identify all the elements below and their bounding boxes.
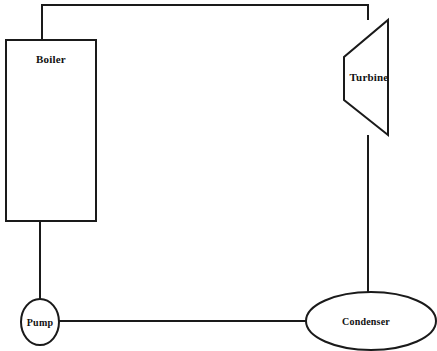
boiler-rectangle[interactable] — [6, 40, 96, 221]
pipe-boiler-to-turbine — [42, 5, 368, 40]
condenser-label: Condenser — [342, 316, 390, 327]
pump-label: Pump — [27, 317, 53, 328]
turbine-label: Turbine — [350, 71, 389, 83]
rankine-cycle-diagram: Boiler Turbine Pump Condenser — [0, 0, 437, 351]
boiler-label: Boiler — [36, 53, 66, 65]
component-shape-group — [6, 20, 436, 350]
